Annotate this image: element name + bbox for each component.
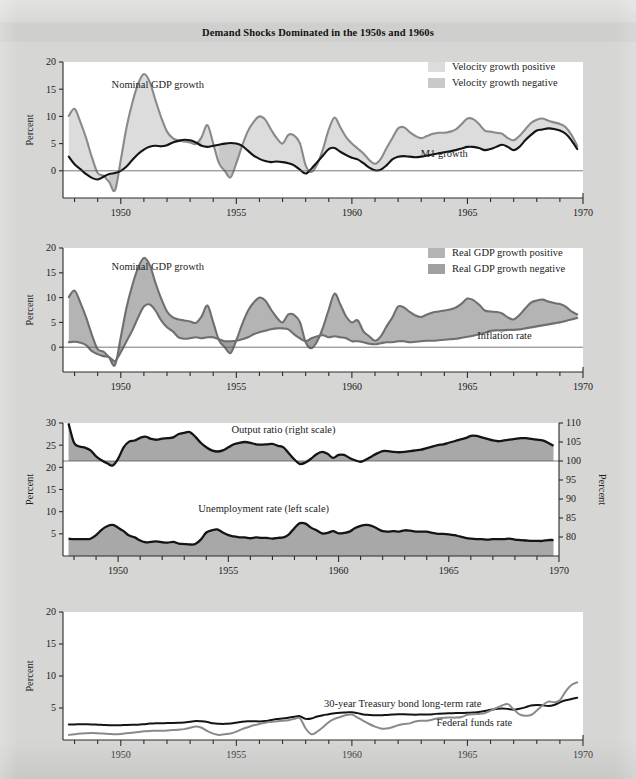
legend-label: Velocity growth positive [452, 61, 556, 72]
figure-title-bar: Demand Shocks Dominated in the 1950s and… [0, 22, 636, 42]
svg-text:1960: 1960 [329, 565, 349, 576]
series-annotation: Output ratio (right scale) [231, 424, 336, 436]
svg-text:15: 15 [46, 638, 56, 649]
svg-text:1965: 1965 [457, 207, 477, 218]
svg-text:0: 0 [51, 342, 56, 353]
svg-text:1970: 1970 [573, 207, 593, 218]
svg-text:1960: 1960 [342, 207, 362, 218]
svg-text:15: 15 [46, 267, 56, 278]
chart-panel-interest-rates: 510152019501955196019651970Percent30-yea… [0, 592, 636, 779]
series-annotation: Unemployment rate (left scale) [198, 503, 329, 515]
svg-text:15: 15 [46, 484, 56, 495]
svg-text:1960: 1960 [342, 749, 362, 760]
chart-panel-real-gdp: 0510152019501955196019651970PercentNomin… [0, 230, 636, 408]
svg-text:15: 15 [46, 84, 56, 95]
svg-text:1955: 1955 [226, 207, 246, 218]
svg-text:10: 10 [46, 292, 56, 303]
svg-text:1965: 1965 [457, 749, 477, 760]
svg-text:1950: 1950 [111, 381, 131, 392]
legend-swatch [428, 248, 445, 258]
svg-text:1965: 1965 [439, 565, 459, 576]
series-annotation: Nominal GDP growth [112, 79, 205, 90]
svg-text:1970: 1970 [573, 381, 593, 392]
svg-text:5: 5 [51, 317, 56, 328]
series-annotation: Inflation rate [477, 330, 532, 341]
svg-text:Percent: Percent [24, 114, 35, 146]
svg-text:1955: 1955 [226, 749, 246, 760]
svg-text:100: 100 [566, 455, 581, 466]
svg-text:5: 5 [51, 528, 56, 539]
page-title: Demand Shocks Dominated in the 1950s and… [202, 27, 434, 38]
series-annotation: 30-year Treasury bond long-term rate [324, 698, 482, 709]
svg-text:1955: 1955 [218, 565, 238, 576]
svg-text:105: 105 [566, 436, 581, 447]
series-annotation: Federal funds rate [436, 717, 512, 728]
series-annotation: M1 growth [421, 148, 469, 159]
svg-text:1965: 1965 [457, 381, 477, 392]
svg-text:20: 20 [46, 56, 56, 67]
svg-text:5: 5 [51, 138, 56, 149]
svg-text:90: 90 [566, 493, 576, 504]
chart-panel-velocity: 0510152019501955196019651970PercentNomin… [0, 44, 636, 230]
svg-text:20: 20 [46, 242, 56, 253]
series-annotation: Nominal GDP growth [112, 261, 205, 272]
legend-label: Real GDP growth negative [452, 263, 565, 274]
svg-text:80: 80 [566, 531, 576, 542]
figure-page: Demand Shocks Dominated in the 1950s and… [0, 0, 636, 779]
svg-text:1950: 1950 [111, 207, 131, 218]
svg-text:Percent: Percent [24, 474, 35, 506]
svg-text:Percent: Percent [24, 660, 35, 692]
svg-text:20: 20 [46, 462, 56, 473]
svg-text:1970: 1970 [573, 749, 593, 760]
svg-text:Percent: Percent [597, 474, 608, 506]
svg-text:110: 110 [566, 417, 581, 428]
legend-swatch [428, 78, 445, 88]
svg-text:1950: 1950 [108, 565, 128, 576]
legend-swatch [428, 264, 445, 274]
svg-text:10: 10 [46, 111, 56, 122]
chart-panel-output-unemployment: 5101520253080859095100105110Percent19501… [0, 408, 636, 592]
svg-text:10: 10 [46, 670, 56, 681]
svg-text:0: 0 [51, 165, 56, 176]
svg-text:20: 20 [46, 606, 56, 617]
svg-text:95: 95 [566, 474, 576, 485]
svg-text:1950: 1950 [111, 749, 131, 760]
svg-text:85: 85 [566, 512, 576, 523]
svg-text:1955: 1955 [226, 381, 246, 392]
legend-label: Real GDP growth positive [452, 247, 563, 258]
svg-text:1970: 1970 [549, 565, 569, 576]
svg-text:5: 5 [51, 702, 56, 713]
svg-text:30: 30 [46, 417, 56, 428]
svg-text:1960: 1960 [342, 381, 362, 392]
svg-text:Percent: Percent [24, 294, 35, 326]
legend-label: Velocity growth negative [452, 77, 558, 88]
svg-text:25: 25 [46, 440, 56, 451]
svg-text:10: 10 [46, 506, 56, 517]
legend-swatch [428, 62, 445, 72]
